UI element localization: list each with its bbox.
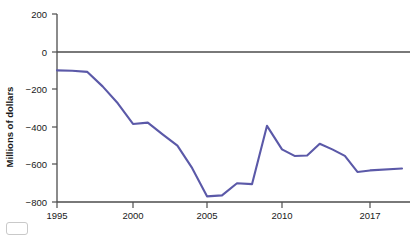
y-tick-label-minus200: −200 <box>26 84 47 95</box>
y-tick-label-minus600: −600 <box>26 159 47 170</box>
page-corner-artifact <box>6 222 28 235</box>
x-tick-label-2017: 2017 <box>359 210 380 221</box>
x-tick-label-1995: 1995 <box>46 210 67 221</box>
x-tick-label-2000: 2000 <box>122 210 143 221</box>
x-tick-label-2010: 2010 <box>271 210 292 221</box>
line-chart: 200 0 −200 −400 −600 −800 1995 2000 2005… <box>0 0 414 237</box>
x-axis-ticks <box>57 202 370 208</box>
y-axis-ticks <box>52 14 57 202</box>
data-series-line <box>57 70 402 196</box>
x-tick-label-2005: 2005 <box>196 210 217 221</box>
y-tick-label-0: 0 <box>42 47 47 58</box>
y-tick-label-minus800: −800 <box>26 197 47 208</box>
y-tick-label-200: 200 <box>31 9 47 20</box>
y-tick-label-minus400: −400 <box>26 122 47 133</box>
chart-container: 200 0 −200 −400 −600 −800 1995 2000 2005… <box>0 0 414 237</box>
y-axis-title: Millions of dollars <box>4 87 15 168</box>
